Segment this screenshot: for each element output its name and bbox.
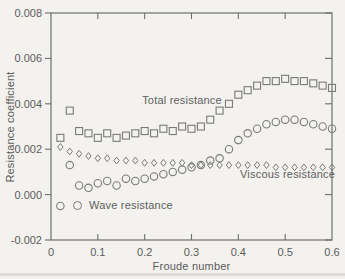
marker-circle-wave	[85, 184, 92, 191]
marker-circle-wave	[310, 121, 317, 128]
marker-circle-wave	[291, 116, 298, 123]
marker-square-total	[207, 116, 214, 123]
marker-circle-wave	[169, 168, 176, 175]
y-axis-label: Resistance coefficient	[4, 27, 16, 227]
marker-square-total	[216, 107, 223, 114]
marker-square-total	[254, 82, 261, 89]
marker-diamond-viscous	[161, 159, 166, 166]
marker-square-total	[113, 134, 120, 141]
marker-diamond-viscous	[217, 162, 222, 169]
marker-square-total	[300, 78, 307, 85]
marker-circle-wave	[57, 202, 64, 209]
y-tick-label: -0.002	[11, 234, 42, 246]
x-tick-label: 0.4	[231, 246, 246, 258]
marker-circle-wave	[281, 116, 288, 123]
marker-square-total	[122, 132, 129, 139]
marker-circle-wave	[150, 173, 157, 180]
annotation-wave-resistance: Wave resistance	[73, 199, 173, 211]
marker-diamond-viscous	[208, 162, 213, 169]
annotation-viscous-resistance: Viscous resistance	[240, 168, 335, 180]
marker-square-total	[85, 130, 92, 137]
marker-circle-wave	[122, 175, 129, 182]
marker-diamond-viscous	[151, 159, 156, 166]
marker-diamond-viscous	[58, 144, 63, 151]
marker-circle-wave	[272, 118, 279, 125]
marker-diamond-viscous	[67, 148, 72, 155]
marker-square-total	[235, 91, 242, 98]
marker-circle-wave	[263, 121, 270, 128]
marker-diamond-viscous	[86, 153, 91, 160]
marker-circle-wave	[207, 157, 214, 164]
marker-diamond-viscous	[114, 157, 119, 164]
marker-square-total	[291, 78, 298, 85]
resistance-plot: 0.0080.0060.0040.0020.000-0.00200.10.20.…	[0, 0, 345, 279]
scan-artifact-band	[0, 273, 345, 276]
marker-circle-wave	[132, 177, 139, 184]
marker-circle-wave	[113, 182, 120, 189]
marker-square-total	[104, 130, 111, 137]
marker-square-total	[94, 134, 101, 141]
marker-square-total	[244, 87, 251, 94]
marker-square-total	[160, 125, 167, 132]
y-tick-label: 0.004	[14, 98, 42, 110]
marker-square-total	[141, 128, 148, 135]
x-axis-label: Froude number	[51, 260, 332, 272]
marker-circle-wave	[94, 180, 101, 187]
y-tick-label: 0.000	[14, 189, 42, 201]
marker-circle-wave	[244, 130, 251, 137]
marker-square-total	[66, 107, 73, 114]
figure: 0.0080.0060.0040.0020.000-0.00200.10.20.…	[0, 0, 345, 279]
x-tick-label: 0.2	[137, 246, 152, 258]
marker-square-total	[132, 130, 139, 137]
marker-square-total	[76, 128, 83, 135]
marker-square-total	[263, 78, 270, 85]
marker-diamond-viscous	[95, 155, 100, 162]
marker-square-total	[57, 134, 64, 141]
y-tick-label: 0.008	[14, 7, 42, 19]
marker-square-total	[169, 128, 176, 135]
y-tick-label: 0.006	[14, 52, 42, 64]
marker-diamond-viscous	[179, 159, 184, 166]
marker-square-total	[310, 80, 317, 87]
marker-circle-wave	[66, 161, 73, 168]
marker-square-total	[319, 82, 326, 89]
marker-circle-wave	[300, 118, 307, 125]
marker-diamond-viscous	[133, 157, 138, 164]
marker-square-total	[272, 78, 279, 85]
x-tick-label: 0.1	[90, 246, 105, 258]
marker-circle-wave	[319, 123, 326, 130]
x-tick-label: 0.5	[278, 246, 293, 258]
marker-diamond-viscous	[76, 150, 81, 157]
marker-square-total	[179, 123, 186, 130]
marker-circle-wave	[216, 155, 223, 162]
marker-circle-wave	[253, 125, 260, 132]
marker-square-total	[151, 130, 158, 137]
marker-circle-wave	[104, 177, 111, 184]
marker-circle-wave	[178, 166, 185, 173]
marker-circle-wave	[235, 136, 242, 143]
marker-diamond-viscous	[170, 159, 175, 166]
marker-diamond-viscous	[123, 157, 128, 164]
marker-square-total	[197, 123, 204, 130]
marker-circle-wave	[75, 182, 82, 189]
y-tick-label: 0.002	[14, 143, 42, 155]
marker-diamond-viscous	[189, 162, 194, 169]
x-tick-label: 0	[48, 246, 54, 258]
marker-diamond-viscous	[142, 159, 147, 166]
marker-diamond-viscous	[226, 162, 231, 169]
marker-square-total	[282, 75, 289, 82]
marker-diamond-viscous	[198, 162, 203, 169]
x-tick-label: 0.3	[184, 246, 199, 258]
marker-diamond-viscous	[105, 155, 110, 162]
marker-circle-wave	[141, 175, 148, 182]
annotation-total-resistance: Total resistance	[137, 94, 227, 106]
marker-circle-wave	[225, 146, 232, 153]
circle-marker-icon	[73, 201, 82, 210]
x-tick-label: 0.6	[324, 246, 339, 258]
marker-circle-wave	[160, 170, 167, 177]
marker-square-total	[188, 125, 195, 132]
annotation-wave-resistance-label: Wave resistance	[89, 199, 173, 211]
